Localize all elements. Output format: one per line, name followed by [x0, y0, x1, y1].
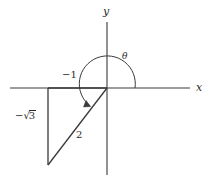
hypotenuse-label: 2 — [76, 130, 82, 140]
radical-symbol: −√ — [15, 111, 30, 121]
trigonometry-figure: y x θ −1 2 −√3 — [0, 0, 214, 187]
x-axis-label: x — [196, 82, 202, 93]
triangle-hypotenuse — [48, 88, 107, 165]
figure-canvas — [0, 0, 214, 187]
theta-angle-label: θ — [122, 52, 127, 61]
radicand-value: 3 — [29, 110, 36, 121]
opposite-side-label: −√3 — [15, 110, 36, 121]
angle-arc-arrowhead — [84, 101, 91, 107]
y-axis-label: y — [103, 6, 109, 17]
adjacent-side-label: −1 — [62, 70, 77, 80]
